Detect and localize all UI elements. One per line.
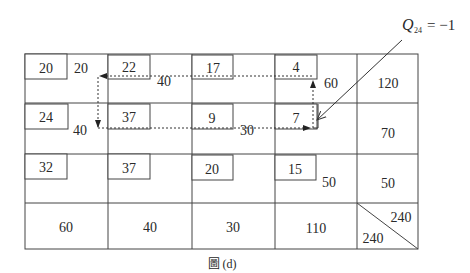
cost-r1c1: 20	[39, 61, 53, 76]
table-grid	[25, 54, 418, 249]
cost-r1c4: 4	[293, 60, 300, 75]
cost-r1c3: 17	[206, 61, 220, 76]
alloc-r3c4: 50	[322, 175, 336, 190]
alloc-r1c2: 40	[157, 74, 171, 89]
cost-r1c2: 22	[122, 60, 136, 75]
demand-c2: 40	[143, 220, 157, 235]
cost-r3c2: 37	[122, 161, 136, 176]
svg-text:Q: Q	[402, 16, 414, 33]
cost-r3c4: 15	[288, 162, 302, 177]
supply-r1: 120	[378, 76, 399, 91]
demand-c3: 30	[226, 220, 240, 235]
supply-r2: 70	[381, 126, 395, 141]
cost-r2c3: 9	[209, 111, 216, 126]
demand-c4: 110	[306, 221, 326, 236]
cost-r2c4: 7	[293, 111, 300, 126]
transportation-table-diagram: 20 20 22 40 17 4 60 120 24 40 37 9 30 7 …	[0, 0, 470, 273]
cost-r3c1: 32	[39, 160, 53, 175]
demand-c1: 60	[59, 220, 73, 235]
total-supply: 240	[391, 210, 412, 225]
cost-r2c1: 24	[39, 110, 53, 125]
svg-text:= −1: = −1	[427, 17, 455, 33]
cost-r3c3: 20	[205, 162, 219, 177]
opportunity-cost-label: Q 24 = −1	[402, 16, 455, 35]
supply-r3: 50	[381, 176, 395, 191]
cost-r2c2: 37	[122, 110, 136, 125]
alloc-r2c3: 30	[240, 123, 254, 138]
svg-text:24: 24	[414, 26, 422, 35]
alloc-r1c1: 20	[74, 61, 88, 76]
cost-boxes	[25, 54, 317, 180]
total-demand: 240	[363, 231, 384, 246]
figure-caption: 圖 (d)	[208, 257, 237, 271]
alloc-r2c1: 40	[73, 123, 87, 138]
alloc-r1c4: 60	[324, 76, 338, 91]
